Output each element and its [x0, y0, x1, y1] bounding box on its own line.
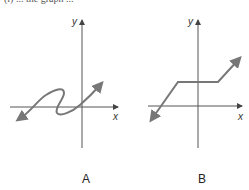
graph-a-x-label: x [112, 111, 119, 122]
graph-a-y-label: y [71, 16, 78, 27]
graph-b: y x [148, 16, 244, 148]
graph-a-label: A [82, 172, 90, 186]
graphs-figure: y x y x [0, 0, 249, 190]
graph-a: y x [10, 16, 119, 148]
graph-b-label: B [198, 172, 206, 186]
graph-a-curve [22, 84, 101, 117]
graph-b-y-label: y [187, 16, 194, 27]
graph-b-x-label: x [237, 111, 244, 122]
graph-b-curve [154, 59, 239, 116]
